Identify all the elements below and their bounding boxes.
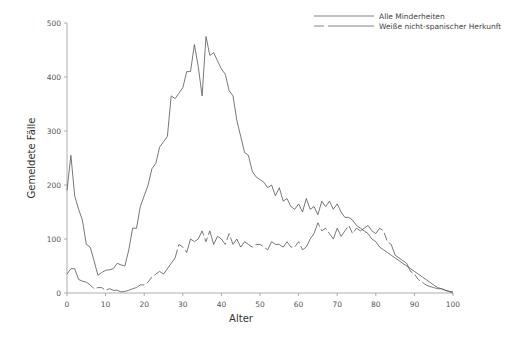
series-line-minorities — [67, 37, 453, 292]
x-tick-label: 10 — [101, 300, 111, 309]
x-axis-label: Alter — [229, 313, 254, 324]
x-tick-label: 0 — [65, 300, 70, 309]
legend: Alle Minderheiten Weiße nicht-spanischer… — [314, 12, 501, 31]
x-tick-label: 70 — [332, 300, 342, 309]
x-tick-label: 50 — [255, 300, 265, 309]
x-tick-label: 90 — [410, 300, 420, 309]
line-chart: 01002003004005000102030405060708090100 A… — [0, 0, 526, 340]
x-tick-label: 80 — [371, 300, 381, 309]
y-tick-label: 100 — [47, 235, 62, 244]
x-tick-label: 100 — [446, 300, 461, 309]
x-tick-label: 20 — [139, 300, 149, 309]
x-tick-label: 60 — [294, 300, 304, 309]
x-tick-label: 30 — [178, 300, 188, 309]
y-tick-label: 200 — [47, 181, 62, 190]
y-tick-label: 400 — [47, 73, 62, 82]
y-tick-label: 300 — [47, 127, 62, 136]
x-tick-label: 40 — [217, 300, 227, 309]
plot-lines — [67, 37, 453, 294]
legend-label-minorities: Alle Minderheiten — [379, 12, 445, 21]
y-axis-label: Gemeldete Fälle — [26, 118, 37, 199]
y-tick-label: 500 — [47, 19, 62, 28]
legend-label-whites: Weiße nicht-spanischer Herkunft — [379, 22, 501, 31]
y-tick-label: 0 — [56, 289, 61, 298]
axes: 01002003004005000102030405060708090100 — [47, 19, 461, 310]
